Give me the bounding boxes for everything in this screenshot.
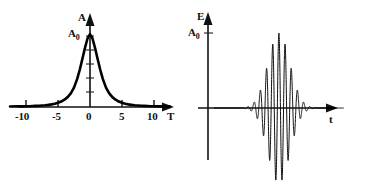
physics-figure: A A0 -10 -5 0 5 10 T E A0 t: [0, 0, 372, 184]
y-axis-arrow-icon: [86, 13, 95, 26]
electric-field-plot: [186, 0, 372, 184]
y-axis-group: [86, 13, 95, 107]
y-axis-arrow-icon: [204, 12, 213, 25]
electric-field-panel: E A0 t: [186, 0, 372, 184]
x-tick-label-5: 5: [119, 111, 124, 122]
x-tick-label-10: 10: [147, 111, 158, 122]
x-axis-label: T: [167, 111, 174, 122]
wave-packet-curve: [214, 33, 344, 180]
amplitude-spectrum-panel: A A0 -10 -5 0 5 10 T: [0, 0, 186, 184]
x-tick-label-0: 0: [86, 111, 91, 122]
y-axis-group: [204, 12, 214, 160]
peak-amplitude-label: A0: [188, 27, 200, 41]
peak-amplitude-label: A0: [68, 28, 80, 42]
x-axis-label: t: [329, 114, 332, 125]
y-axis-label: E: [197, 11, 204, 22]
x-tick-label--10: -10: [15, 111, 29, 122]
y-axis-label: A: [78, 12, 86, 23]
x-tick-label--5: -5: [52, 111, 61, 122]
amplitude-spectrum-plot: [0, 0, 186, 184]
